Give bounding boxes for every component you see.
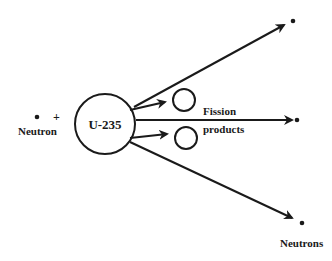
neutrons-label: Neutrons (280, 237, 324, 249)
neutron-label: Neutron (18, 125, 57, 137)
arrow-to-product-2 (130, 134, 167, 138)
fission-label: Fission (203, 105, 236, 117)
outgoing-neutron-dot-middle (295, 118, 300, 123)
incoming-neutron-dot (35, 115, 40, 120)
neutron-arrow-top (134, 25, 284, 107)
plus-sign: + (53, 110, 60, 124)
products-label: products (203, 123, 245, 135)
fission-product-1 (173, 89, 195, 111)
outgoing-neutron-dot-bottom (300, 221, 305, 226)
fission-product-2 (175, 127, 197, 149)
u235-label: U-235 (88, 117, 122, 132)
outgoing-neutron-dot-top (291, 19, 296, 24)
neutron-arrow-bottom (130, 142, 292, 218)
fission-diagram: + Neutron U-235 Fission products Neutron… (0, 0, 332, 261)
